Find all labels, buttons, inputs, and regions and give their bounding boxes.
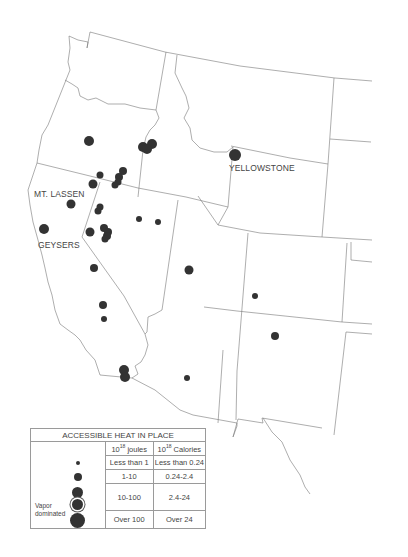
nv-ut-border xyxy=(162,200,178,310)
geothermal-site-marker xyxy=(86,228,95,237)
legend-table: ACCESSIBLE HEAT IN PLACE Vapor dominated… xyxy=(30,428,206,529)
washington-coast xyxy=(66,32,90,80)
legend-row-calories: Less than 0.24 xyxy=(153,456,205,470)
legend-row-joules: 1-10 xyxy=(105,470,153,484)
geothermal-site-marker xyxy=(39,224,49,234)
header-calories: 1018 Calories xyxy=(153,442,205,456)
canada-border xyxy=(90,32,372,81)
az-nm-border xyxy=(218,350,223,423)
geothermal-site-marker xyxy=(112,182,119,189)
geothermal-site-marker xyxy=(142,144,152,154)
id-mt-border xyxy=(175,55,233,152)
mt-wy-border xyxy=(231,146,328,164)
or-ca-nv-border xyxy=(37,163,138,188)
nv-az-border xyxy=(145,310,162,334)
legend-title: ACCESSIBLE HEAT IN PLACE xyxy=(31,429,206,442)
geothermal-site-marker xyxy=(89,180,98,189)
geothermal-site-marker xyxy=(97,172,104,179)
label-geysers: GEYSERS xyxy=(38,240,80,250)
mt-nd-border xyxy=(328,78,334,164)
wy-south-border xyxy=(218,225,322,237)
oregon-coast xyxy=(37,80,66,163)
legend-dot-vapor-dominated xyxy=(72,499,83,510)
ok-panhandle xyxy=(334,322,372,435)
geothermal-site-marker xyxy=(229,149,241,161)
label-mt-lassen: MT. LASSEN xyxy=(34,189,85,199)
geothermal-site-marker xyxy=(95,208,102,215)
ut-northeast xyxy=(198,196,228,225)
label-yellowstone: YELLOWSTONE xyxy=(229,163,295,173)
geothermal-site-marker xyxy=(136,216,142,222)
geothermal-site-marker xyxy=(185,266,194,275)
legend-dot-medium xyxy=(74,473,82,481)
ut-co-border xyxy=(237,233,248,371)
state-borders xyxy=(28,32,372,494)
wa-or-border xyxy=(65,80,156,110)
header-joules: 1018 joules xyxy=(105,442,153,456)
legend-symbol-column: Vapor dominated xyxy=(31,442,106,529)
geothermal-site-marker xyxy=(84,136,94,146)
co-east-border xyxy=(342,243,347,322)
nm-south xyxy=(236,371,237,420)
vapor-dominated-label: Vapor dominated xyxy=(35,502,65,518)
legend-row-calories: 2.4-24 xyxy=(153,484,205,510)
geothermal-site-marker xyxy=(67,200,76,209)
ca-az-border xyxy=(132,334,148,378)
geothermal-site-marker xyxy=(90,264,98,272)
legend-dot-xlarge xyxy=(70,513,85,528)
geothermal-site-marker xyxy=(102,236,109,243)
geothermal-site-marker xyxy=(155,219,161,225)
legend-row-joules: Over 100 xyxy=(105,510,153,528)
geothermal-site-marker xyxy=(271,332,279,340)
wy-east-border xyxy=(322,164,328,237)
wy-ne-border xyxy=(322,237,372,240)
ca-nv-border xyxy=(82,182,145,334)
ne-border xyxy=(351,242,372,262)
rio-grande xyxy=(263,418,310,494)
nd-sd-border xyxy=(330,139,371,142)
wa-id-border xyxy=(156,52,166,110)
legend-dot-small xyxy=(76,461,80,465)
legend-row-joules: Less than 1 xyxy=(105,456,153,470)
geothermal-site-marker xyxy=(120,372,130,382)
co-nm-border xyxy=(204,307,342,322)
geothermal-site-marker xyxy=(252,293,258,299)
geothermal-site-marker xyxy=(101,316,107,322)
legend-row-joules: 10-100 xyxy=(105,484,153,510)
legend-dot-large xyxy=(72,487,83,498)
legend-row-calories: 0.24-2.4 xyxy=(153,470,205,484)
geothermal-site-marker xyxy=(99,301,107,309)
geothermal-site-marker xyxy=(184,375,190,381)
id-south-border xyxy=(138,188,228,207)
legend-row-calories: Over 24 xyxy=(153,510,205,528)
